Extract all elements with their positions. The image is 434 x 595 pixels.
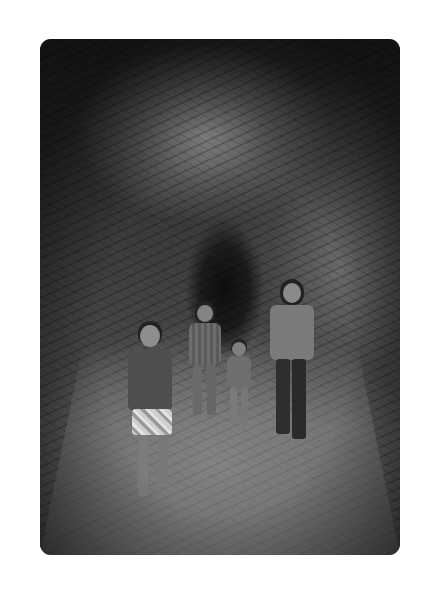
tunnel-family-photo [40,39,400,555]
vignette-overlay [40,39,400,555]
